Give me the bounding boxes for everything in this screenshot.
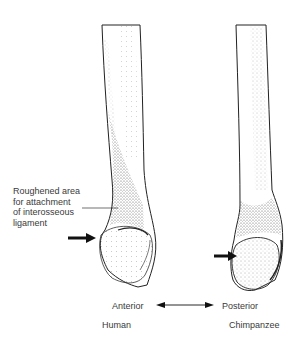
double-arrow-icon — [156, 302, 214, 308]
callout-line-4: ligament — [13, 218, 103, 229]
anterior-label: Anterior — [112, 301, 144, 312]
callout-line-1: Roughened area — [13, 186, 103, 197]
callout-line-2: for attachment — [13, 197, 103, 208]
roughened-area-label: Roughened area for attachment of interos… — [13, 186, 103, 228]
bone-comparison-illustration — [0, 0, 301, 345]
human-bone — [100, 25, 156, 287]
human-label: Human — [102, 320, 131, 331]
posterior-label: Posterior — [222, 301, 258, 312]
arrow-icon — [68, 233, 96, 243]
chimpanzee-bone — [231, 25, 283, 291]
chimpanzee-label: Chimpanzee — [229, 320, 280, 331]
callout-line-3: of interosseous — [13, 207, 103, 218]
